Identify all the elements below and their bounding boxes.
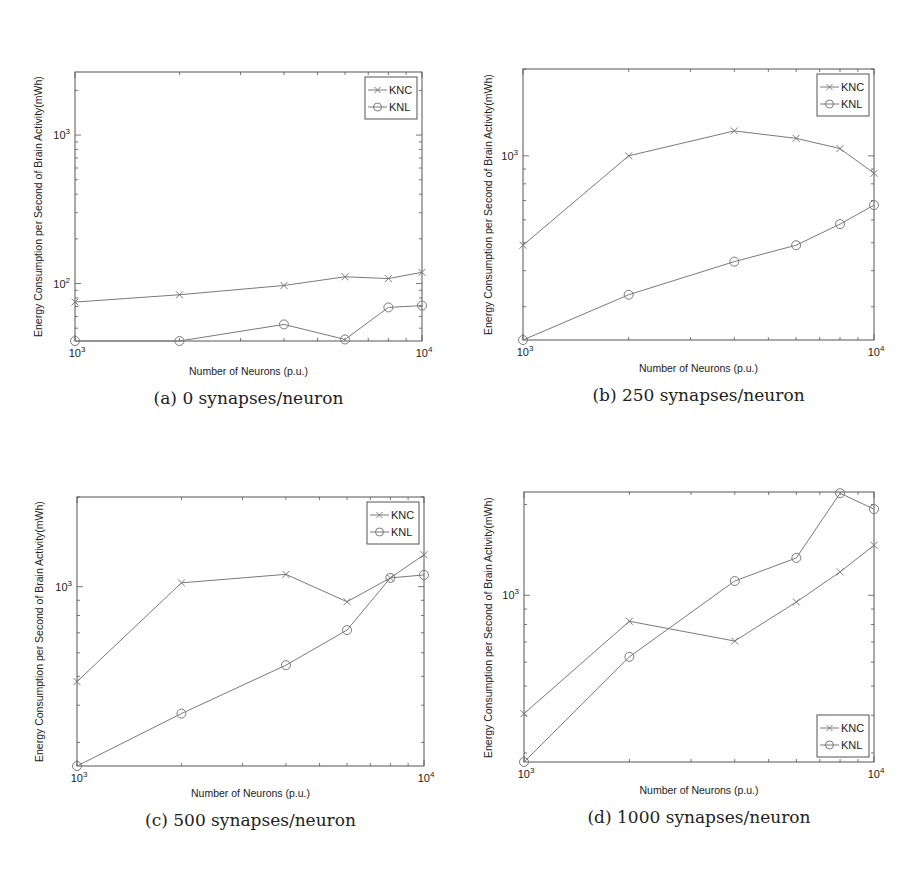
series-line-knc xyxy=(524,545,874,713)
x-axis-label: Number of Neurons (p.u.) xyxy=(524,784,874,796)
legend-label-knl: KNL xyxy=(841,739,862,751)
y-tick-label-1e3: 103 xyxy=(502,587,519,601)
x-tick-label-1e4: 104 xyxy=(868,766,885,780)
panel-caption: (d) 1000 synapses/neuron xyxy=(484,807,907,827)
x-tick-label-1e3: 103 xyxy=(518,766,535,780)
marker-x-icon xyxy=(793,598,800,605)
chart-svg: 103104103KNCKNL xyxy=(0,0,907,877)
legend: KNCKNL xyxy=(817,715,869,757)
y-axis-label: Energy Consumption per Second of Brain A… xyxy=(482,497,494,758)
marker-x-icon xyxy=(837,568,844,575)
legend-label-knc: KNC xyxy=(841,722,864,734)
